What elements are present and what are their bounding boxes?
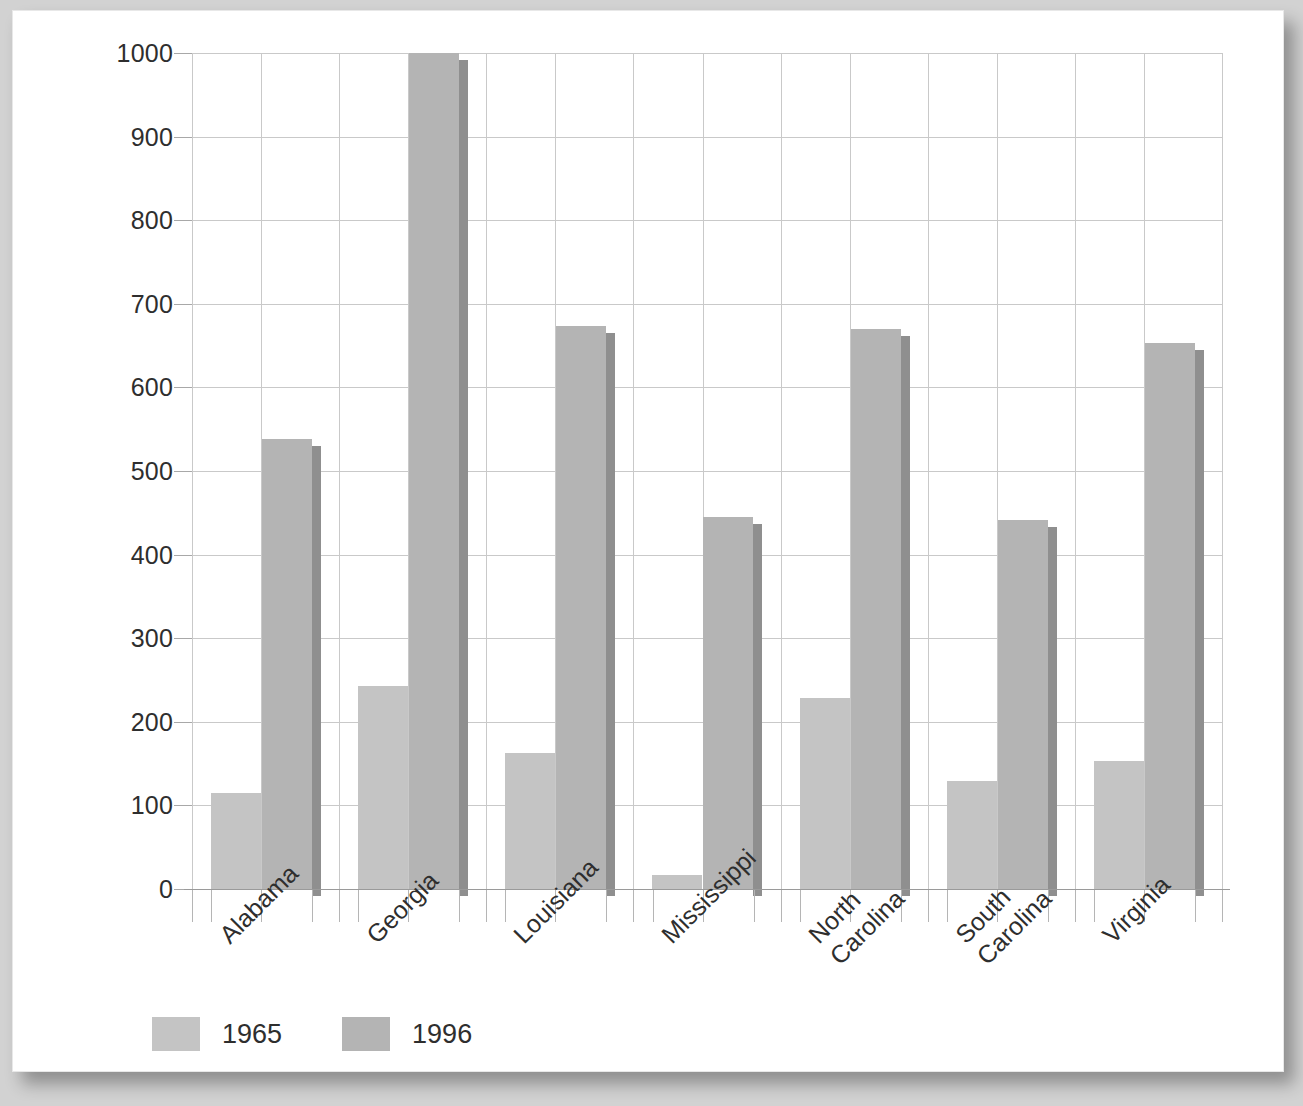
y-tick-label: 1000 [53,39,173,68]
x-tick-mark [606,890,607,922]
bar-louisiana-1996 [556,326,606,889]
x-tick-mark [754,890,755,922]
bar-body [998,520,1048,890]
bar-south-carolina-1996 [998,520,1048,890]
y-tick-mark [174,638,192,639]
x-tick-mark [211,890,212,922]
legend-swatch-icon [342,1017,390,1051]
y-tick-label: 300 [53,624,173,653]
bar-alabama-1965 [211,793,261,889]
bar-north-carolina-1996 [851,329,901,889]
x-tick-mark [459,890,460,922]
x-tick-mark [928,890,929,922]
y-tick-mark [174,722,192,723]
legend: 19651996 [152,1017,532,1051]
x-tick-mark [1222,890,1223,922]
y-tick-label: 700 [53,289,173,318]
y-tick-mark [174,220,192,221]
x-tick-mark [505,890,506,922]
bar-mississippi-1996 [703,517,753,889]
x-tick-mark [486,890,487,922]
figure-page: Number of voters (in thousands) 01002003… [0,0,1303,1106]
legend-label: 1965 [222,1019,282,1050]
y-tick-mark [174,471,192,472]
x-tick-mark [781,890,782,922]
legend-item-1965: 1965 [152,1017,342,1051]
y-tick-label: 0 [53,875,173,904]
legend-swatch-icon [152,1017,200,1051]
x-tick-mark [1094,890,1095,922]
bar-body [703,517,753,889]
x-tick-mark [192,890,193,922]
y-tick-label: 600 [53,373,173,402]
x-tick-mark [1075,890,1076,922]
x-tick-mark [312,890,313,922]
y-tick-label: 200 [53,707,173,736]
bar-body [556,326,606,889]
bar-shadow-face [1195,350,1204,896]
bar-group [192,53,339,889]
y-tick-mark [174,53,192,54]
y-tick-mark [174,304,192,305]
bar-body [262,439,312,889]
x-tick-mark [339,890,340,922]
x-tick-mark [358,890,359,922]
x-tick-mark [947,890,948,922]
y-tick-mark [174,387,192,388]
x-tick-mark [633,890,634,922]
y-tick-mark [174,555,192,556]
x-tick-mark [800,890,801,922]
legend-item-1996: 1996 [342,1017,532,1051]
x-tick-mark [653,890,654,922]
y-tick-mark [174,137,192,138]
y-tick-label: 800 [53,206,173,235]
bar-shadow-face [901,336,910,896]
chart-panel: Number of voters (in thousands) 01002003… [12,10,1284,1072]
bar-shadow-face [459,60,468,896]
bar-body [211,793,261,889]
y-tick-label: 100 [53,791,173,820]
x-tick-mark [1195,890,1196,922]
bar-shadow-face [606,333,615,896]
legend-label: 1996 [412,1019,472,1050]
bar-alabama-1996 [262,439,312,889]
y-tick-mark [174,805,192,806]
y-tick-label: 900 [53,122,173,151]
gridline-x [1222,53,1223,889]
y-tick-label: 400 [53,540,173,569]
y-tick-label: 500 [53,457,173,486]
bar-body [851,329,901,889]
